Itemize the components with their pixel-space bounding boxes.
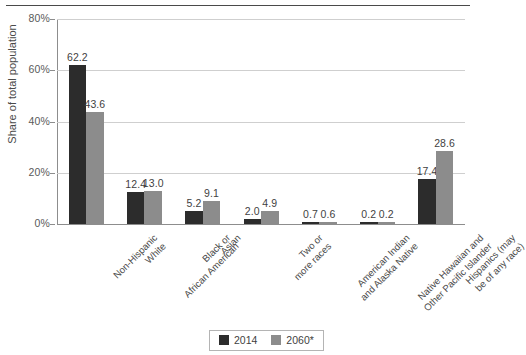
y-tick-label: 20% xyxy=(28,166,50,178)
bar xyxy=(319,222,337,224)
bar-value-label: 0.2 xyxy=(368,208,404,220)
plot-area: 62.243.612.413.05.29.12.04.90.70.60.20.2… xyxy=(57,19,465,224)
bar xyxy=(127,192,145,224)
bar xyxy=(244,219,262,224)
bar xyxy=(86,112,104,224)
top-divider-rule xyxy=(6,5,470,6)
legend-label: 2014 xyxy=(234,334,257,346)
chart-legend: 20142060* xyxy=(209,330,324,351)
bar-value-label: 13.0 xyxy=(135,177,171,189)
y-tick-label: 40% xyxy=(28,115,50,127)
y-tick-mark xyxy=(50,70,55,71)
legend-swatch xyxy=(271,335,281,345)
bar xyxy=(302,222,320,224)
x-axis-category-label: Two or more races xyxy=(283,232,333,282)
bar xyxy=(69,65,87,224)
bar-value-label: 0.6 xyxy=(310,208,346,220)
gridline xyxy=(57,122,465,123)
bar-value-label: 62.2 xyxy=(59,51,95,63)
legend-label: 2060* xyxy=(286,334,313,346)
bar xyxy=(418,179,436,224)
legend-swatch xyxy=(219,335,229,345)
bar xyxy=(185,211,203,224)
y-tick-mark xyxy=(50,173,55,174)
legend-item: 2014 xyxy=(219,334,257,346)
x-axis-category-label: Non-Hispanic White xyxy=(111,232,168,289)
y-tick-label: 0% xyxy=(34,217,50,229)
gridline xyxy=(57,19,465,20)
gridline xyxy=(57,70,465,71)
y-tick-label: 60% xyxy=(28,63,50,75)
x-axis-line xyxy=(57,224,465,225)
bar-value-label: 43.6 xyxy=(77,98,113,110)
y-tick-mark xyxy=(50,224,55,225)
x-axis-category-label: American Indian and Alaska Native xyxy=(350,232,421,303)
y-tick-label: 80% xyxy=(28,12,50,24)
bar xyxy=(436,151,454,224)
bar-value-label: 4.9 xyxy=(252,197,288,209)
bar-value-label: 9.1 xyxy=(193,187,229,199)
bar xyxy=(378,222,396,224)
bar xyxy=(203,201,221,224)
y-tick-mark xyxy=(50,122,55,123)
bar-value-label: 28.6 xyxy=(427,137,463,149)
bar xyxy=(144,191,162,224)
bar xyxy=(360,222,378,224)
legend-item: 2060* xyxy=(271,334,313,346)
y-axis-title: Share of total population xyxy=(6,0,18,169)
gridline xyxy=(57,173,465,174)
y-tick-mark xyxy=(50,19,55,20)
bar xyxy=(261,211,279,224)
